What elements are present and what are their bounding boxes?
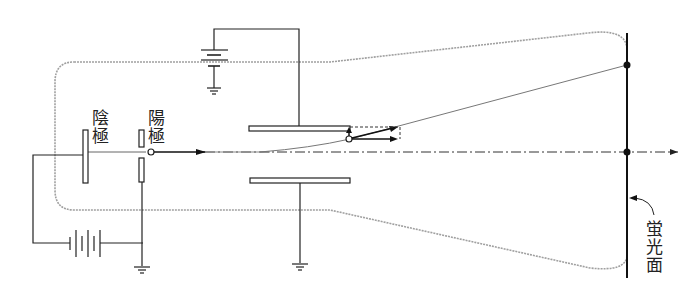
ground-icon [292,264,308,270]
leader-arrow-icon [629,195,637,201]
anode-plate-bottom [139,158,144,182]
tube-outline [55,32,627,269]
beam-arrow-icon [196,149,206,155]
anode-aperture-icon [148,149,154,155]
vector-horizontal-arrow-icon [390,136,398,142]
spot-deflected-icon [624,62,631,69]
deflection-wire [214,29,299,126]
screen-label-leader [635,198,654,215]
spot-center-icon [624,149,631,156]
deflection-plate-bottom [250,178,350,183]
axis-arrow-icon [670,149,678,155]
ground-icon [207,88,221,94]
deflection-plate-top [249,126,350,131]
cathode-label: 陰極 [89,109,108,145]
cathode-plate [83,130,88,183]
vector-resultant [352,128,393,138]
deflected-beam [260,65,627,152]
cathode-wire [33,155,83,243]
screen-label: 蛍光面 [643,220,662,274]
anode-plate-top [139,130,144,147]
crt-diagram [0,0,699,298]
electron-icon [346,136,352,142]
ground-icon [134,267,150,273]
anode-label: 陽極 [145,109,164,145]
